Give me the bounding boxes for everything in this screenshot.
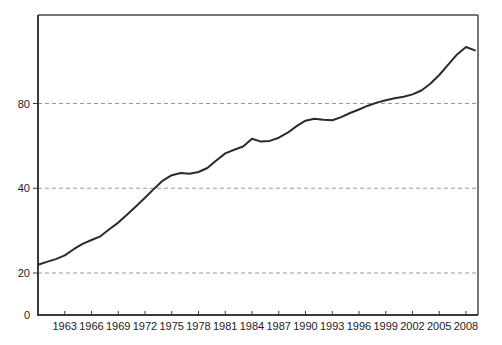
x-tick-label: 1987 xyxy=(267,320,291,332)
x-tick-label: 1984 xyxy=(240,320,264,332)
x-tick-label: 1975 xyxy=(160,320,184,332)
x-tick-label: 1978 xyxy=(186,320,210,332)
x-tick-label: 1963 xyxy=(53,320,77,332)
x-tick-label: 1990 xyxy=(293,320,317,332)
x-tick-label: 1999 xyxy=(374,320,398,332)
y-tick-label: 40 xyxy=(18,182,30,194)
x-tick-label: 1993 xyxy=(320,320,344,332)
x-tick-label: 2002 xyxy=(400,320,424,332)
y-tick-label: 20 xyxy=(18,267,30,279)
x-tick-label: 1972 xyxy=(133,320,157,332)
data-series-line xyxy=(38,47,475,265)
y-tick-label: 80 xyxy=(18,98,30,110)
x-tick-label: 2005 xyxy=(427,320,451,332)
x-tick-label: 1969 xyxy=(106,320,130,332)
x-tick-label: 1996 xyxy=(347,320,371,332)
line-chart: 2040800196319661969197219751978198119841… xyxy=(0,0,502,345)
x-tick-label: 1966 xyxy=(79,320,103,332)
x-tick-label: 1981 xyxy=(213,320,237,332)
chart-canvas: 2040800196319661969197219751978198119841… xyxy=(0,0,502,345)
y-origin-label: 0 xyxy=(24,309,30,321)
x-tick-label: 2008 xyxy=(454,320,478,332)
